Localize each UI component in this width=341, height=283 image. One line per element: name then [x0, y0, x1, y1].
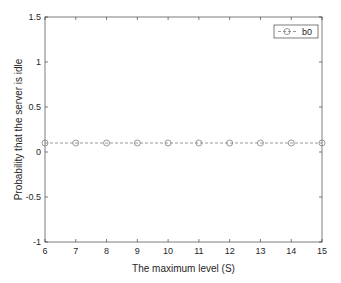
x-tick-label: 8 [104, 246, 109, 256]
y-axis-label: Probability that the server is idle [13, 58, 24, 200]
legend-entry-b0: b0 [302, 27, 312, 37]
x-tick-label: 10 [163, 246, 173, 256]
line-chart: -1-0.500.511.5 6789101112131415 The maxi… [0, 0, 341, 283]
y-tick-label: 1.5 [28, 12, 41, 22]
y-tick-label: 0 [36, 147, 41, 157]
y-tick-label: 1 [36, 57, 41, 67]
y-tick-label: 0.5 [28, 102, 41, 112]
y-tick-label: -1 [33, 237, 41, 247]
x-tick-label: 13 [255, 246, 265, 256]
legend: b0 [274, 25, 318, 38]
x-tick-label: 7 [73, 246, 78, 256]
plot-area [45, 17, 322, 242]
x-tick-label: 15 [317, 246, 327, 256]
x-tick-label: 14 [286, 246, 296, 256]
x-tick-label: 6 [42, 246, 47, 256]
x-tick-label: 9 [135, 246, 140, 256]
x-axis-label: The maximum level (S) [132, 263, 235, 274]
axes-frame [45, 17, 322, 242]
x-tick-label: 12 [225, 246, 235, 256]
x-tick-label: 11 [194, 246, 203, 256]
y-tick-label: -0.5 [25, 192, 41, 202]
